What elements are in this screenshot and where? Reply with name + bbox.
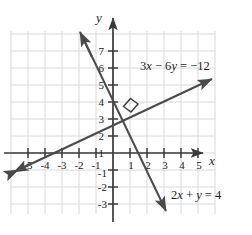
x-tick-label: 5 [196, 159, 202, 171]
x-tick-label: -2 [74, 159, 83, 171]
eq1-rhs: = −12 [177, 59, 210, 73]
eq1-mid: − 6 [152, 59, 172, 73]
y-tick-label: 4 [99, 96, 105, 108]
x-tick-label: 4 [179, 159, 185, 171]
x-tick-label: 3 [162, 159, 168, 171]
y-tick-label: -3 [98, 198, 108, 210]
eq2-rhs: = 4 [202, 188, 222, 202]
y-tick-label: 3 [99, 113, 105, 125]
equation-label-line1: 3x − 6y = −12 [140, 59, 210, 73]
eq2-mid: + [183, 188, 196, 202]
x-tick-label: 1 [128, 159, 134, 171]
graph-svg: -5 -4 -3 -2 -1 1 2 3 4 5 7 6 5 4 3 2 1 -… [0, 0, 252, 235]
coordinate-graph-figure: -5 -4 -3 -2 -1 1 2 3 4 5 7 6 5 4 3 2 1 -… [0, 0, 252, 235]
y-tick-label: 7 [99, 45, 105, 57]
x-tick-label: -3 [57, 159, 67, 171]
y-tick-label: -2 [98, 181, 107, 193]
x-axis-label: x [208, 153, 215, 168]
equation-label-line2: 2x + y = 4 [171, 188, 222, 202]
x-tick-label: -4 [40, 159, 50, 171]
y-axis-label: y [94, 10, 102, 25]
y-tick-label: 1 [99, 147, 105, 159]
y-tick-label: -1 [98, 167, 107, 179]
